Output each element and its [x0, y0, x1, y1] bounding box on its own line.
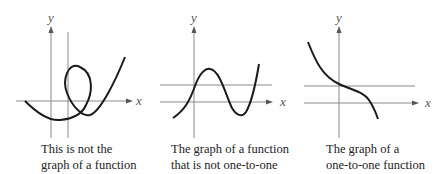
x-axis-label: x: [279, 94, 286, 109]
curve: [173, 64, 259, 118]
y-axis-label: y: [46, 10, 54, 25]
x-axis-arrow-icon: [266, 100, 273, 105]
panel-function-not-one-to-one: x y: [160, 10, 286, 138]
caption-line: one-to-one function: [326, 157, 425, 173]
curve: [25, 57, 125, 120]
y-axis-label: y: [189, 10, 197, 25]
caption-line: The graph of a: [326, 141, 425, 157]
x-axis-arrow-icon: [412, 101, 419, 106]
y-axis-arrow-icon: [192, 26, 197, 33]
caption-line: This is not the: [41, 141, 136, 157]
panel-one-to-one-function: x y: [304, 10, 431, 138]
x-axis-arrow-icon: [126, 99, 133, 104]
y-axis-label: y: [334, 10, 342, 25]
panel-not-a-function: x y: [16, 10, 142, 138]
caption-not-a-function: This is not the graph of a function: [41, 141, 136, 173]
x-axis-label: x: [424, 95, 431, 110]
caption-line: that is not one-to-one: [171, 157, 289, 173]
caption-function-not-one-to-one: The graph of a function that is not one-…: [171, 141, 289, 173]
y-axis-arrow-icon: [337, 26, 342, 33]
curve: [308, 42, 378, 119]
y-axis-arrow-icon: [49, 26, 54, 33]
x-axis-label: x: [135, 93, 142, 108]
caption-one-to-one-function: The graph of a one-to-one function: [326, 141, 425, 173]
caption-line: The graph of a function: [171, 141, 289, 157]
caption-line: graph of a function: [41, 157, 136, 173]
